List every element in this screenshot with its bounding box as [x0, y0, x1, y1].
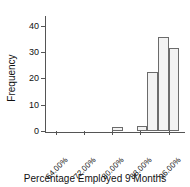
x-tick-mark: [112, 131, 113, 135]
y-tick-mark: [41, 131, 45, 132]
y-tick-mark: [41, 105, 45, 106]
histogram-bar: [137, 126, 148, 131]
y-tick-label: 0: [34, 127, 39, 136]
x-tick-mark: [56, 131, 57, 135]
x-tick-label: 64.00%: [64, 137, 89, 162]
histogram-bar: [147, 72, 158, 131]
x-tick-label: 88.00%: [148, 137, 173, 162]
y-tick-mark: [41, 78, 45, 79]
y-tick-label: 30: [29, 48, 39, 57]
y-tick-label: 10: [29, 100, 39, 109]
y-tick-mark: [41, 52, 45, 53]
x-tick-label: 96.00%: [177, 137, 190, 162]
histogram-bar: [158, 37, 169, 131]
histogram-bar: [169, 48, 180, 131]
x-tick-mark: [84, 131, 85, 135]
x-tick-mark: [140, 131, 141, 135]
y-tick-mark: [41, 26, 45, 27]
x-tick-label: 80.00%: [120, 137, 145, 162]
y-axis-title: Frequency: [5, 18, 19, 138]
x-tick-mark: [169, 131, 170, 135]
histogram-bar: [112, 127, 123, 131]
histogram-chart: 010203040 64.00%72.00%80.00%88.00%96.00%…: [0, 0, 190, 187]
y-tick-label: 20: [29, 74, 39, 83]
y-tick-label: 40: [29, 21, 39, 30]
plot-area: 010203040 64.00%72.00%80.00%88.00%96.00%: [45, 18, 181, 131]
x-tick-label: 72.00%: [92, 137, 117, 162]
x-axis-title: Percentage Employed 9 Months: [0, 173, 190, 184]
x-axis-line: [45, 132, 185, 133]
